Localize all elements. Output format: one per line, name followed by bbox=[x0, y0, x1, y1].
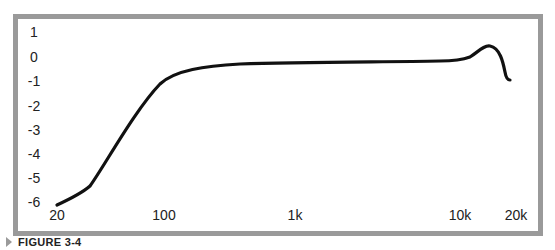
figure-caption: FIGURE 3-4 bbox=[6, 236, 82, 248]
y-tick-label: -1 bbox=[22, 74, 46, 88]
y-tick-label: 1 bbox=[22, 25, 46, 39]
y-tick-label: -2 bbox=[22, 99, 46, 113]
y-tick-label: -3 bbox=[22, 123, 46, 137]
y-tick-label: -4 bbox=[22, 147, 46, 161]
y-tick-label: 0 bbox=[22, 50, 46, 64]
x-tick-label: 10k bbox=[449, 208, 472, 222]
x-tick-label: 1k bbox=[288, 208, 303, 222]
x-tick-label: 100 bbox=[152, 208, 175, 222]
caption-arrow-icon bbox=[6, 237, 12, 247]
caption-label: FIGURE 3-4 bbox=[18, 236, 82, 248]
chart-plot bbox=[0, 0, 555, 250]
response-curve bbox=[57, 46, 510, 205]
y-tick-label: -6 bbox=[22, 195, 46, 209]
x-tick-label: 20k bbox=[505, 208, 528, 222]
y-tick-label: -5 bbox=[22, 171, 46, 185]
x-tick-label: 20 bbox=[49, 208, 65, 222]
